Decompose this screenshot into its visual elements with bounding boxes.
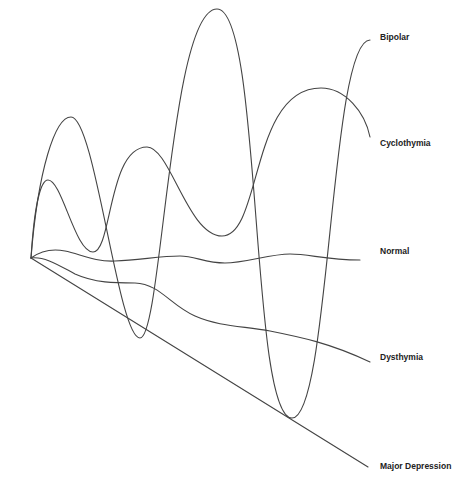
dysthymia-curve [31, 258, 370, 362]
label-cyclothymia: Cyclothymia [380, 138, 431, 148]
label-major-depression: Major Depression [380, 461, 451, 471]
label-normal: Normal [380, 246, 409, 256]
mood-spectrum-diagram [0, 0, 455, 489]
cyclothymia-curve [31, 88, 370, 258]
label-bipolar: Bipolar [380, 32, 409, 42]
major-depression-line [31, 258, 368, 467]
normal-curve [31, 250, 360, 263]
label-dysthymia: Dysthymia [380, 352, 423, 362]
bipolar-curve [31, 9, 370, 418]
